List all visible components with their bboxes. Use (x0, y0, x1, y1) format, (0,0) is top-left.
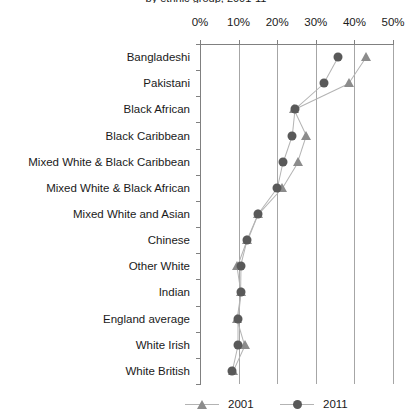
y-tick-mark (196, 227, 201, 228)
x-tick-label: 0% (192, 16, 209, 28)
y-tick-mark (196, 96, 201, 97)
y-category-label: Pakistani (143, 77, 190, 89)
y-tick-mark (196, 44, 201, 45)
y-axis-line (200, 44, 201, 384)
x-axis-tick-labels: 0%10%20%30%40%50% (0, 16, 412, 30)
data-point-circle-2011 (273, 183, 282, 192)
data-point-triangle-2001 (293, 157, 303, 166)
y-category-label: Other White (129, 260, 190, 272)
x-tick-label: 10% (227, 16, 250, 28)
circle-marker-icon (293, 400, 302, 409)
grid-line (316, 44, 317, 384)
y-tick-mark (196, 70, 201, 71)
y-category-label: Bangladeshi (127, 51, 190, 63)
grid-line (239, 44, 240, 384)
data-point-circle-2011 (228, 366, 237, 375)
data-point-circle-2011 (243, 236, 252, 245)
y-axis-category-labels: BangladeshiPakistaniBlack AfricanBlack C… (0, 44, 196, 384)
y-category-label: Mixed White & Black Caribbean (28, 156, 190, 168)
y-category-label: Indian (159, 286, 190, 298)
data-point-triangle-2001 (361, 52, 371, 61)
data-point-triangle-2001 (301, 131, 311, 140)
data-point-circle-2011 (334, 53, 343, 62)
x-tick-mark (277, 40, 278, 45)
x-tick-mark (393, 40, 394, 45)
data-point-circle-2011 (236, 288, 245, 297)
legend-line (185, 399, 219, 409)
triangle-marker-icon (197, 400, 207, 409)
data-point-circle-2011 (278, 157, 287, 166)
x-tick-mark (239, 40, 240, 45)
y-category-label: England average (103, 313, 190, 325)
y-tick-mark (196, 201, 201, 202)
dot-plot-chart: by ethnic group, 2001-11 0%10%20%30%40%5… (0, 0, 412, 419)
x-tick-label: 20% (266, 16, 289, 28)
x-tick-label: 50% (381, 16, 404, 28)
legend-label: 2011 (323, 398, 348, 410)
data-point-circle-2011 (233, 314, 242, 323)
chart-title: by ethnic group, 2001-11 (0, 0, 412, 3)
x-tick-label: 40% (343, 16, 366, 28)
y-category-label: White British (125, 365, 190, 377)
x-tick-mark (316, 40, 317, 45)
data-point-circle-2011 (233, 340, 242, 349)
y-tick-mark (196, 253, 201, 254)
data-point-circle-2011 (290, 105, 299, 114)
data-point-circle-2011 (253, 210, 262, 219)
data-point-triangle-2001 (344, 78, 354, 87)
y-category-label: Black African (124, 103, 190, 115)
y-category-label: Black Caribbean (106, 130, 190, 142)
y-tick-mark (196, 122, 201, 123)
x-axis-line (200, 44, 393, 45)
grid-line (277, 44, 278, 384)
y-tick-mark (196, 384, 201, 385)
data-point-circle-2011 (287, 131, 296, 140)
y-category-label: Mixed White and Asian (73, 208, 190, 220)
legend-line (280, 399, 314, 409)
y-category-label: Chinese (148, 234, 190, 246)
data-point-circle-2011 (319, 79, 328, 88)
grid-line (354, 44, 355, 384)
data-point-circle-2011 (236, 262, 245, 271)
y-tick-mark (196, 175, 201, 176)
y-tick-mark (196, 306, 201, 307)
y-category-label: White Irish (136, 339, 190, 351)
grid-line (393, 44, 394, 384)
x-tick-label: 30% (304, 16, 327, 28)
plot-area (200, 44, 393, 384)
legend-item[interactable]: 2001 (185, 394, 254, 414)
y-tick-mark (196, 279, 201, 280)
y-tick-mark (196, 358, 201, 359)
x-tick-mark (354, 40, 355, 45)
chart-legend: 20012011 (0, 394, 412, 419)
y-category-label: Mixed White & Black African (46, 182, 190, 194)
y-tick-mark (196, 149, 201, 150)
legend-label: 2001 (228, 398, 254, 410)
legend-item[interactable]: 2011 (280, 394, 348, 414)
y-tick-mark (196, 332, 201, 333)
